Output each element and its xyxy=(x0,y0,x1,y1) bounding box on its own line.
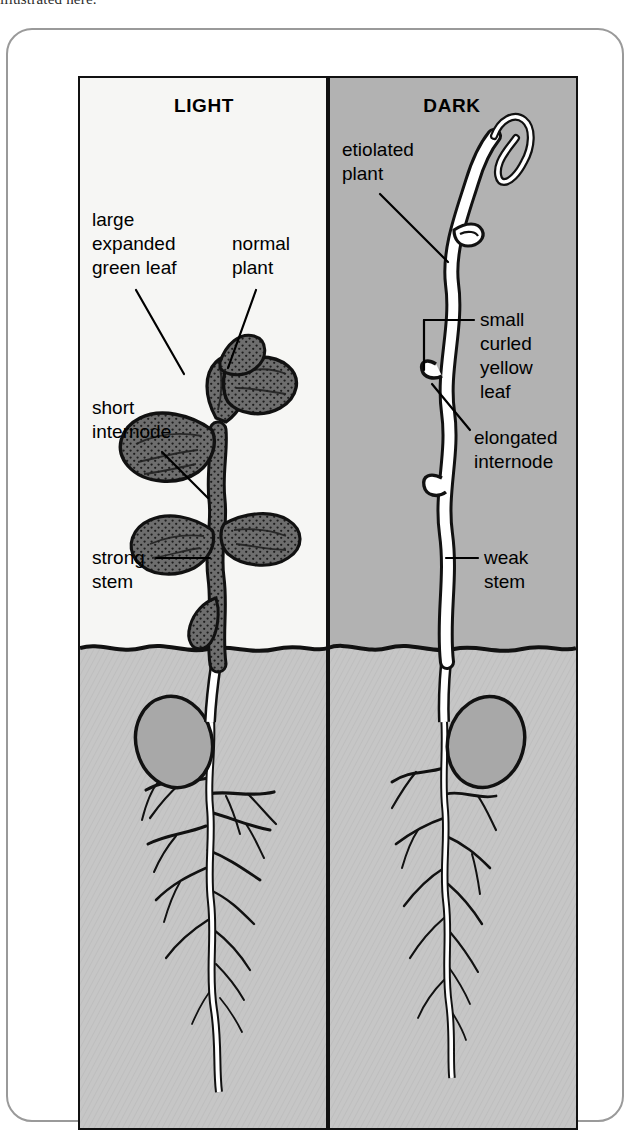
svg-text:normal: normal xyxy=(232,233,290,254)
figure-card: LIGHT DARK large expanded green leaf nor… xyxy=(6,28,624,1122)
svg-text:weak: weak xyxy=(483,547,529,568)
svg-text:stem: stem xyxy=(484,571,525,592)
svg-text:expanded: expanded xyxy=(92,233,175,254)
light-panel-title: LIGHT xyxy=(174,95,234,116)
svg-text:leaf: leaf xyxy=(480,381,511,402)
svg-text:green leaf: green leaf xyxy=(92,257,177,278)
svg-text:internode: internode xyxy=(474,451,553,472)
light-leaf-lower-right xyxy=(221,514,300,566)
svg-text:large: large xyxy=(92,209,134,230)
svg-text:stem: stem xyxy=(92,571,133,592)
svg-text:curled: curled xyxy=(480,333,532,354)
svg-text:small: small xyxy=(480,309,524,330)
svg-text:plant: plant xyxy=(342,163,384,184)
light-dark-plant-diagram: LIGHT DARK large expanded green leaf nor… xyxy=(78,76,578,1130)
svg-text:short: short xyxy=(92,397,135,418)
svg-text:elongated: elongated xyxy=(474,427,557,448)
svg-text:plant: plant xyxy=(232,257,274,278)
svg-text:strong: strong xyxy=(92,547,145,568)
svg-text:yellow: yellow xyxy=(480,357,533,378)
svg-text:etiolated: etiolated xyxy=(342,139,414,160)
svg-text:internode: internode xyxy=(92,421,171,442)
clipped-caption-text: illustrated here. xyxy=(0,0,220,9)
dark-panel-title: DARK xyxy=(423,95,480,116)
